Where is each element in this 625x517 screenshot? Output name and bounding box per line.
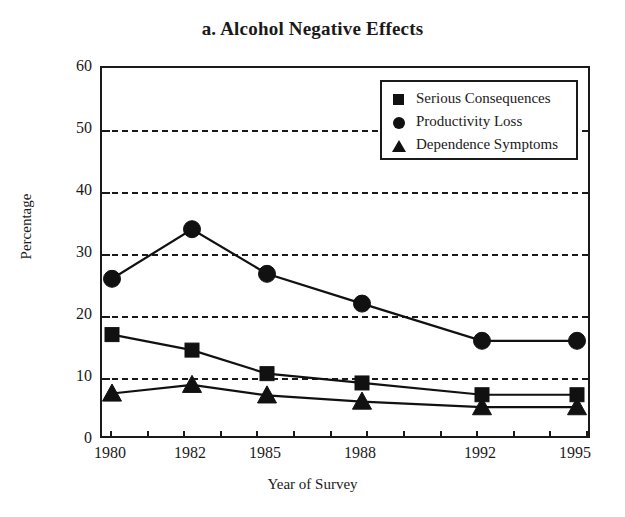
- chart-figure: a. Alcohol Negative Effects Percentage 0…: [0, 0, 625, 517]
- circle-marker-icon: [569, 332, 586, 349]
- legend-label: Serious Consequences: [416, 91, 551, 106]
- legend-row: Dependence Symptoms: [390, 133, 576, 156]
- y-axis-tick-labels: 0102030405060: [46, 66, 92, 438]
- y-tick-label: 10: [76, 367, 92, 385]
- x-tick-mark: [183, 431, 185, 438]
- x-axis-title: Year of Survey: [0, 476, 625, 493]
- circle-marker-icon-shape: [393, 117, 405, 129]
- legend-row: Productivity Loss: [390, 110, 576, 133]
- legend-row: Serious Consequences: [390, 87, 576, 110]
- chart-title: a. Alcohol Negative Effects: [0, 18, 625, 40]
- y-tick-mark: [102, 254, 110, 256]
- y-tick-label: 0: [84, 429, 92, 447]
- y-tick-label: 40: [76, 181, 92, 199]
- x-tick-mark: [220, 431, 222, 438]
- x-tick-label: 1992: [464, 444, 496, 462]
- y-tick-mark: [102, 130, 110, 132]
- y-tick-mark: [102, 192, 110, 194]
- series-productivity-loss: [104, 221, 586, 350]
- circle-marker-icon: [184, 221, 201, 238]
- y-tick-label: 50: [76, 119, 92, 137]
- square-marker-icon-shape: [393, 94, 404, 105]
- circle-marker-icon: [390, 113, 410, 131]
- x-axis-tick-labels: 198019821985198819921995: [100, 444, 590, 468]
- y-tick-mark: [102, 378, 110, 380]
- series-line: [112, 229, 577, 341]
- legend-label: Productivity Loss: [416, 114, 522, 129]
- y-axis-title: Percentage: [18, 172, 35, 282]
- y-tick-label: 30: [76, 243, 92, 261]
- x-tick-label: 1988: [344, 444, 376, 462]
- x-tick-label: 1982: [174, 444, 206, 462]
- x-tick-mark: [586, 431, 588, 438]
- x-tick-label: 1995: [559, 444, 591, 462]
- square-marker-icon: [105, 328, 119, 342]
- triangle-marker-icon: [390, 136, 410, 154]
- triangle-marker-icon: [183, 375, 202, 392]
- y-tick-label: 60: [76, 57, 92, 75]
- triangle-marker-icon-shape: [392, 140, 406, 152]
- square-marker-icon: [355, 376, 369, 390]
- square-marker-icon: [185, 343, 199, 357]
- x-tick-mark: [403, 431, 405, 438]
- x-tick-mark: [440, 431, 442, 438]
- x-tick-mark: [293, 431, 295, 438]
- x-tick-label: 1985: [249, 444, 281, 462]
- chart-legend: Serious ConsequencesProductivity LossDep…: [380, 80, 578, 160]
- x-tick-mark: [476, 431, 478, 438]
- x-tick-mark: [110, 431, 112, 438]
- x-tick-mark: [330, 431, 332, 438]
- circle-marker-icon: [259, 265, 276, 282]
- circle-marker-icon: [104, 270, 121, 287]
- x-tick-mark: [513, 431, 515, 438]
- series-serious-consequences: [105, 328, 584, 402]
- y-tick-label: 20: [76, 305, 92, 323]
- x-tick-mark: [366, 431, 368, 438]
- x-tick-mark: [256, 431, 258, 438]
- x-tick-label: 1980: [94, 444, 126, 462]
- x-tick-mark: [147, 431, 149, 438]
- x-tick-mark: [549, 431, 551, 438]
- y-tick-mark: [102, 316, 110, 318]
- square-marker-icon: [390, 90, 410, 108]
- circle-marker-icon: [354, 295, 371, 312]
- circle-marker-icon: [474, 332, 491, 349]
- legend-label: Dependence Symptoms: [416, 137, 558, 152]
- series-line: [112, 385, 577, 407]
- square-marker-icon: [260, 367, 274, 381]
